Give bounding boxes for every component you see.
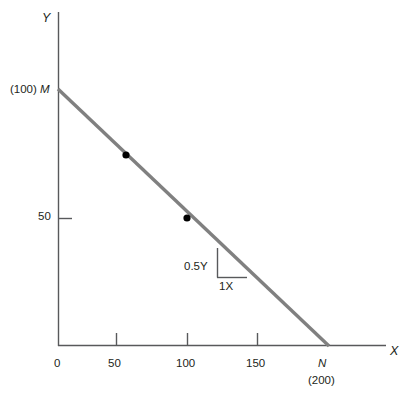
chart-canvas bbox=[0, 0, 406, 397]
y-axis-label: Y bbox=[42, 12, 50, 25]
x-intercept-label: N bbox=[318, 358, 326, 370]
data-point-marker bbox=[183, 214, 190, 221]
x-tick-label-50: 50 bbox=[108, 358, 121, 370]
x-intercept-value: (200) bbox=[308, 375, 335, 387]
y-intercept-label: (100) M bbox=[10, 84, 50, 96]
slope-rise-label: 0.5Y bbox=[184, 261, 208, 273]
origin-label: 0 bbox=[54, 358, 60, 370]
slope-rise-text: 0.5Y bbox=[184, 260, 208, 272]
budget-line bbox=[58, 89, 329, 346]
slope-run-label: 1X bbox=[219, 281, 233, 293]
x-tick-label-150: 150 bbox=[246, 358, 265, 370]
y-tick-label-50: 50 bbox=[38, 211, 51, 223]
x-tick-label-100: 100 bbox=[176, 358, 195, 370]
budget-line-chart: Y X (100) M 50 0 50 100 150 N (200) 0.5Y… bbox=[0, 0, 406, 397]
x-axis-label: X bbox=[390, 345, 398, 358]
data-point-marker bbox=[122, 151, 129, 158]
y-intercept-point-label: M bbox=[40, 83, 50, 95]
y-intercept-value: (100) bbox=[10, 83, 37, 95]
slope-run-text: 1X bbox=[219, 280, 233, 292]
